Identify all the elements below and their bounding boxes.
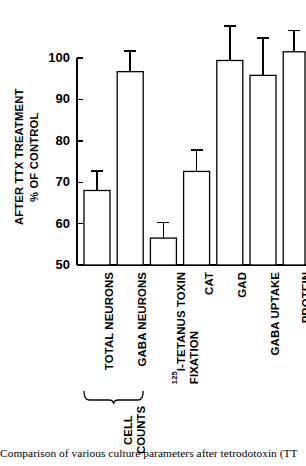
bar: [117, 72, 143, 265]
error-bar: [224, 26, 236, 60]
error-bar: [257, 38, 269, 75]
error-bar: [288, 31, 300, 52]
x-axis-label: GABA NEURONS: [136, 272, 149, 366]
x-axis-category-labels: TOTAL NEURONSGABA NEURONS125I-TETANUS TO…: [0, 266, 306, 406]
error-bar: [91, 171, 103, 190]
bar: [150, 238, 176, 265]
x-axis-label: 125I-TETANUS TOXINFIXATION: [169, 272, 200, 384]
x-axis-label-line: TOTAL NEURONS: [103, 272, 115, 370]
x-axis-label: GAD: [236, 272, 249, 298]
bar: [184, 171, 210, 265]
x-axis-label-line: FIXATION: [188, 272, 201, 384]
bar: [250, 75, 276, 265]
x-axis-label-line: CAT: [203, 272, 215, 295]
error-bar: [124, 51, 136, 72]
x-axis-label-line: GAD: [236, 272, 248, 298]
figure-container: % OF CONTROL AFTER TTX TREATMENT 100 90 …: [0, 0, 306, 466]
x-axis-label: PROTEIN: [300, 272, 306, 323]
x-axis-label-line: I-TETANUS TOXIN: [175, 272, 187, 371]
x-axis-label: GABA UPTAKE: [269, 272, 282, 355]
x-axis-label: TOTAL NEURONS: [103, 272, 116, 370]
x-axis-label-line: GABA NEURONS: [136, 272, 148, 366]
chart-canvas: [0, 0, 306, 300]
error-bar: [191, 150, 203, 172]
x-axis-label-line: GABA UPTAKE: [269, 272, 281, 355]
x-axis-label-line: PROTEIN: [300, 272, 306, 323]
chart-plot-area: % OF CONTROL AFTER TTX TREATMENT 100 90 …: [0, 0, 306, 300]
bar: [84, 190, 110, 265]
chart-bars: [84, 52, 305, 265]
bar: [217, 60, 243, 265]
group-label-line1: CELL: [122, 415, 134, 445]
figure-caption: Comparison of various culture parameters…: [0, 446, 306, 460]
error-bar: [157, 222, 169, 238]
bar: [283, 52, 305, 265]
x-axis-label: CAT: [203, 272, 216, 295]
isotope-superscript: 125: [170, 371, 179, 384]
